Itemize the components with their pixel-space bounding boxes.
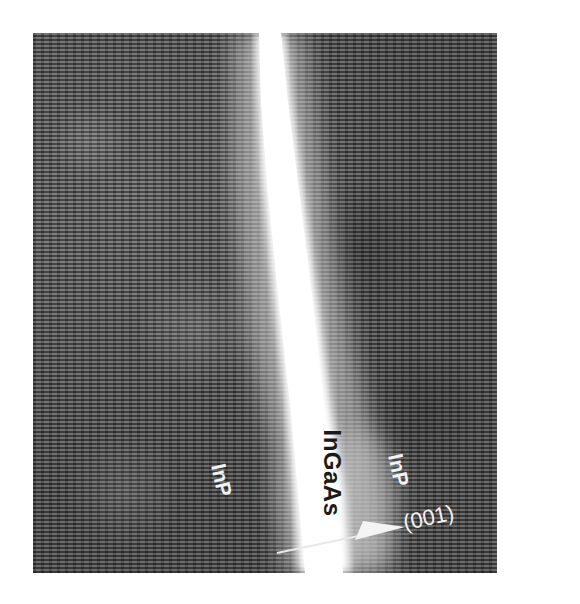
arrow-head-icon (355, 521, 405, 540)
arrow-shaft (277, 535, 363, 553)
tem-lattice-image (33, 33, 497, 573)
label-ingaas: InGaAs (318, 429, 346, 516)
direction-arrow (33, 33, 497, 573)
